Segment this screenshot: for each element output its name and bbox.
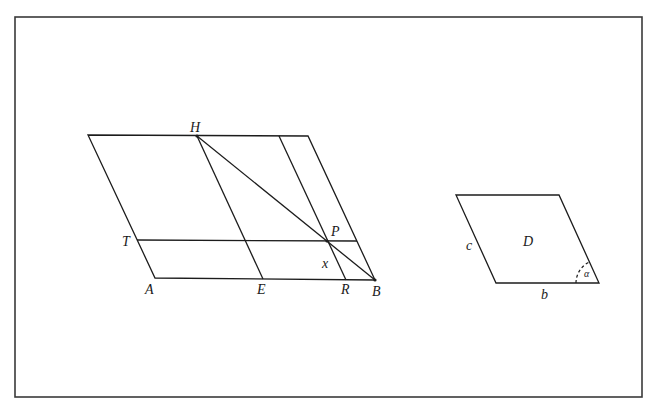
label-B: B: [372, 284, 381, 299]
label-D: D: [522, 234, 533, 249]
label-b: b: [541, 287, 548, 302]
label-P: P: [330, 224, 340, 239]
label-alpha: α: [584, 268, 590, 279]
outer-parallelogram: [88, 135, 375, 280]
left-parallelogram-figure: H T A E R B P x: [88, 120, 381, 299]
label-H: H: [189, 120, 201, 135]
geometry-diagram: H T A E R B P x D c b α: [0, 0, 650, 407]
label-x: x: [321, 256, 329, 271]
point-B: [373, 278, 376, 281]
right-parallelogram-D: D c b α: [456, 195, 599, 302]
label-A: A: [144, 282, 154, 297]
label-T: T: [122, 234, 131, 249]
label-R: R: [340, 282, 350, 297]
point-P: [325, 239, 328, 242]
label-E: E: [256, 282, 266, 297]
line-QR: [279, 136, 346, 280]
label-c: c: [466, 238, 473, 253]
figure-frame: [15, 17, 642, 397]
diagonal-HB: [197, 136, 375, 280]
line-HE: [197, 136, 263, 279]
line-TP: [137, 240, 357, 241]
